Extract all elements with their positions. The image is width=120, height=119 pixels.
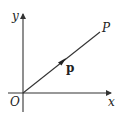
vector-diagram: y x O P p (0, 0, 120, 119)
point-p-label: P (101, 21, 111, 35)
vector-p (23, 32, 100, 93)
y-axis-arrow-icon (20, 13, 26, 19)
y-axis (20, 13, 26, 112)
x-axis-label: x (108, 95, 115, 109)
origin-label: O (10, 95, 20, 109)
vector-p-label: p (66, 61, 74, 75)
y-axis-label: y (11, 9, 19, 23)
